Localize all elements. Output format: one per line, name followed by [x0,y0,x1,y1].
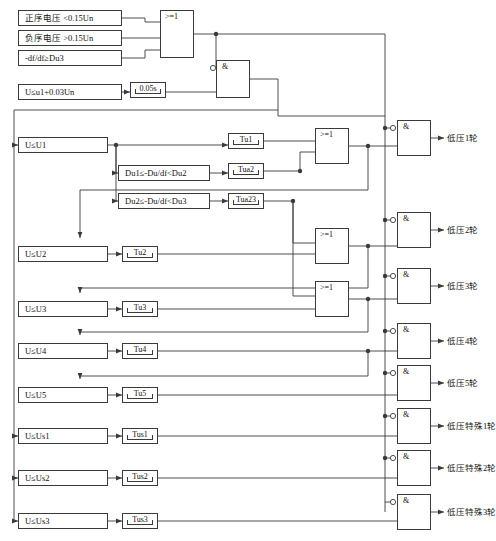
condition-box-u-le-u1[interactable]: U≤U1 [18,137,108,153]
condition-label: Du1≤-Du/df<Du2 [125,169,186,178]
condition-label: U≤U4 [25,347,46,356]
or-gate-top[interactable]: >=1 [160,10,194,58]
timer-block-tus2[interactable]: Tus2 [122,470,158,486]
input-box-dfdt[interactable]: -df/df≥Du3 [18,50,122,66]
or-gate-label: >=1 [320,231,333,239]
or-gate-label: >=1 [165,13,178,21]
output-label-5: 低压5轮 [447,379,478,388]
condition-box-du1-du2[interactable]: Du1≤-Du/df<Du2 [118,165,210,181]
delay-symbol [127,477,153,482]
and-gate-label: & [403,123,409,131]
condition-label: U≤U1 [25,141,46,150]
and-gate-5[interactable]: & [397,365,431,401]
timer-block-tua2[interactable]: Tua2 [228,163,264,179]
and-gate-label: & [403,368,409,376]
output-label-s2: 低压特殊2轮 [447,464,496,473]
input-box-neg-seq[interactable]: 负序电压 >0.15Un [18,30,122,46]
condition-label: U≤Us3 [25,517,50,526]
timer-block-tu3[interactable]: Tu3 [122,301,158,317]
and-gate-top[interactable]: & [216,60,250,98]
delay-symbol [135,89,161,94]
delay-symbol [127,394,153,399]
output-label-1: 低压1轮 [447,134,478,143]
timer-block-tu5[interactable]: Tu5 [122,387,158,403]
condition-label: Du2≤-Du/df<Du3 [125,197,186,206]
condition-box-du2-du3[interactable]: Du2≤-Du/df<Du3 [118,193,210,209]
timer-block-tu2[interactable]: Tu2 [122,246,158,262]
or-gate-label: >=1 [320,284,333,292]
condition-box-u-le-u5[interactable]: U≤U5 [18,387,108,403]
output-label-s3: 低压特殊3轮 [447,508,496,517]
input-box-u-u1-003[interactable]: U≤u1+0.03Un [18,84,122,100]
input-box-pos-seq[interactable]: 正序电压 <0.15Un [18,10,122,26]
input-label: 负序电压 >0.15Un [25,34,93,43]
and-gate-4[interactable]: & [397,323,431,359]
delay-symbol [233,170,259,175]
and-gate-1[interactable]: & [397,120,431,156]
or-gate-2[interactable]: >=1 [315,228,349,264]
timer-block-0-05s[interactable]: 0.05s [130,82,166,98]
and-gate-2[interactable]: & [397,212,431,248]
or-gate-label: >=1 [320,131,333,139]
and-gate-label: & [403,271,409,279]
timer-block-tu4[interactable]: Tu4 [122,343,158,359]
output-label-4: 低压4轮 [447,337,478,346]
input-label: 正序电压 <0.15Un [25,14,93,23]
condition-box-u-le-us2[interactable]: U≤Us2 [18,470,108,486]
and-gate-6[interactable]: & [397,408,431,444]
timer-block-tus3[interactable]: Tus3 [122,513,158,529]
delay-symbol [233,200,259,205]
condition-box-u-le-u4[interactable]: U≤U4 [18,343,108,359]
input-label: -df/df≥Du3 [25,54,64,63]
timer-block-tus1[interactable]: Tus1 [122,428,158,444]
or-gate-1[interactable]: >=1 [315,128,349,164]
condition-label: U≤U5 [25,391,46,400]
and-gate-label: & [403,411,409,419]
condition-label: U≤Us2 [25,474,50,483]
condition-box-u-le-us1[interactable]: U≤Us1 [18,428,108,444]
condition-box-u-le-us3[interactable]: U≤Us3 [18,513,108,529]
or-gate-3[interactable]: >=1 [315,281,349,317]
timer-block-tu1[interactable]: Tu1 [228,133,264,149]
and-gate-label: & [222,63,228,71]
condition-label: U≤U2 [25,250,46,259]
condition-box-u-le-u3[interactable]: U≤U3 [18,301,108,317]
and-gate-8[interactable]: & [397,494,431,530]
output-label-2: 低压2轮 [447,226,478,235]
delay-symbol [127,520,153,525]
delay-symbol [233,140,259,145]
condition-box-u-le-u2[interactable]: U≤U2 [18,246,108,262]
and-gate-label: & [403,215,409,223]
and-gate-label: & [403,326,409,334]
delay-symbol [127,435,153,440]
and-gate-3[interactable]: & [397,268,431,304]
output-label-3: 低压3轮 [447,282,478,291]
timer-block-tua23[interactable]: Tua23 [228,193,264,209]
and-gate-label: & [403,453,409,461]
and-gate-7[interactable]: & [397,450,431,486]
condition-label: U≤Us1 [25,432,50,441]
delay-symbol [127,253,153,258]
condition-label: U≤U3 [25,305,46,314]
input-label: U≤u1+0.03Un [25,88,74,97]
delay-symbol [127,350,153,355]
and-gate-label: & [403,497,409,505]
delay-symbol [127,308,153,313]
output-label-s1: 低压特殊1轮 [447,422,496,431]
